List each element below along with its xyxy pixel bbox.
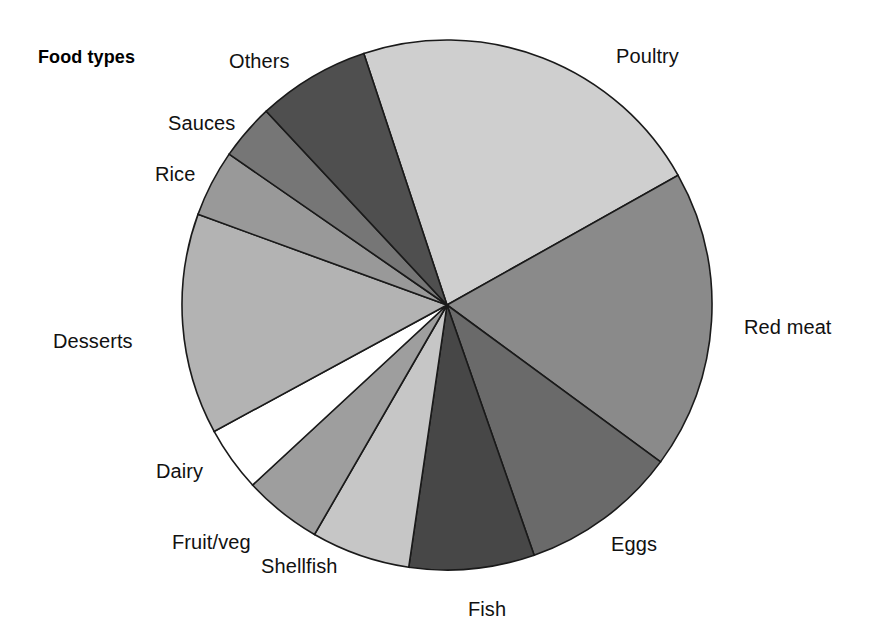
slice-label-desserts: Desserts <box>53 330 133 353</box>
slice-label-fruit-veg: Fruit/veg <box>172 531 251 554</box>
slice-label-dairy: Dairy <box>156 460 203 483</box>
slice-label-fish: Fish <box>468 598 506 621</box>
slice-label-sauces: Sauces <box>168 112 235 135</box>
pie-chart-svg <box>0 0 873 640</box>
slice-label-others: Others <box>229 50 290 73</box>
pie-chart-figure: Food types PoultryRed meatEggsFishShellf… <box>0 0 873 640</box>
slice-label-rice: Rice <box>155 163 195 186</box>
slice-label-poultry: Poultry <box>616 45 679 68</box>
slice-label-eggs: Eggs <box>611 533 657 556</box>
pie-slices-group <box>182 40 712 570</box>
slice-label-shellfish: Shellfish <box>261 555 338 578</box>
slice-label-red-meat: Red meat <box>744 316 832 339</box>
